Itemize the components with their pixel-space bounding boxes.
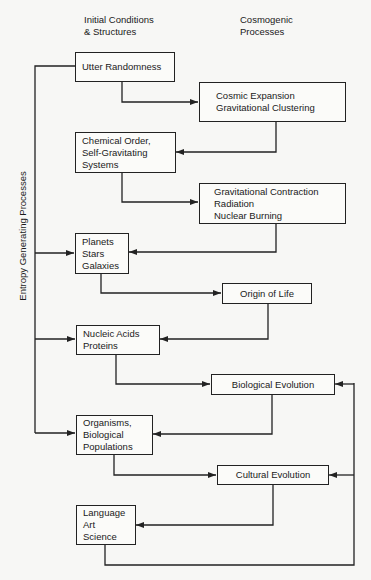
box-planets-stars-galaxies: Planets Stars Galaxies <box>75 233 129 274</box>
box-chemical-order: Chemical Order, Self-Gravitating Systems <box>75 132 176 173</box>
box-origin-of-life: Origin of Life <box>222 283 312 304</box>
box-cosmic-expansion: Cosmic Expansion Gravitational Clusterin… <box>199 82 346 122</box>
box-biological-evolution: Biological Evolution <box>211 374 335 395</box>
box-utter-randomness: Utter Randomness <box>75 52 175 82</box>
box-gravitational-contraction: Gravitational Contraction Radiation Nucl… <box>199 183 346 224</box>
box-organisms: Organisms, Biological Populations <box>76 415 153 455</box>
box-cultural-evolution: Cultural Evolution <box>217 465 329 485</box>
box-nucleic-acids: Nucleic Acids Proteins <box>76 325 160 355</box>
box-language-art-science: Language Art Science <box>76 505 136 545</box>
